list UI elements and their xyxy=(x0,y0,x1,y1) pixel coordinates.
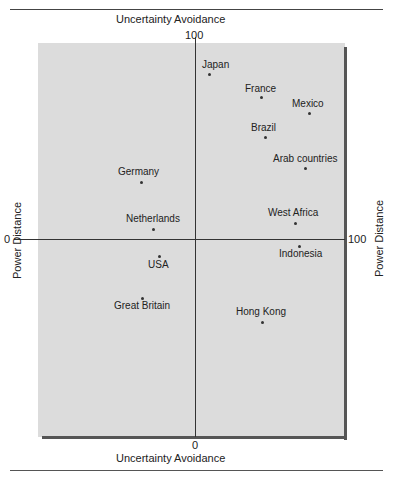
right-axis-tick: 100 xyxy=(348,233,366,245)
top-rule xyxy=(10,9,383,10)
point-france xyxy=(260,96,263,99)
plot-shadow-right xyxy=(344,47,347,440)
bottom-rule xyxy=(10,470,383,471)
left-axis-tick: 0 xyxy=(4,233,10,245)
point-netherlands xyxy=(152,228,155,231)
point-hong-kong xyxy=(261,321,264,324)
point-west-africa xyxy=(294,222,297,225)
left-axis-title: Power Distance xyxy=(11,202,23,279)
label-hong-kong: Hong Kong xyxy=(236,306,286,317)
point-germany xyxy=(140,181,143,184)
point-japan xyxy=(208,73,211,76)
label-mexico: Mexico xyxy=(292,98,324,109)
label-arab-countries: Arab countries xyxy=(273,153,337,164)
point-arab-countries xyxy=(304,167,307,170)
label-west-africa: West Africa xyxy=(268,207,318,218)
top-axis-title: Uncertainty Avoidance xyxy=(116,13,225,25)
label-great-britain: Great Britain xyxy=(114,300,170,311)
label-usa: USA xyxy=(148,259,169,270)
label-indonesia: Indonesia xyxy=(279,248,322,259)
label-japan: Japan xyxy=(202,59,229,70)
bottom-axis-title: Uncertainty Avoidance xyxy=(116,452,225,464)
label-brazil: Brazil xyxy=(251,122,276,133)
bottom-axis-tick: 0 xyxy=(192,439,198,451)
uncertainty-avoidance-axis xyxy=(195,37,196,437)
label-germany: Germany xyxy=(118,166,159,177)
power-distance-axis xyxy=(14,239,345,240)
point-brazil xyxy=(264,136,267,139)
point-mexico xyxy=(308,112,311,115)
right-axis-title: Power Distance xyxy=(373,200,385,277)
point-usa xyxy=(158,255,161,258)
label-netherlands: Netherlands xyxy=(126,213,180,224)
label-france: France xyxy=(245,83,276,94)
